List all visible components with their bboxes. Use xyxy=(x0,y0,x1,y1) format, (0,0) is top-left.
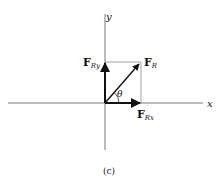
force-resultant-diagram: y x FRy FR FRx θ (c) xyxy=(0,0,219,191)
x-axis-label: x xyxy=(207,98,213,109)
frx-label: FRx xyxy=(137,108,154,122)
y-axis-label: y xyxy=(105,11,112,22)
figure-caption: (c) xyxy=(103,166,115,176)
fry-label: FRy xyxy=(83,56,101,70)
fr-label: FR xyxy=(144,56,158,70)
theta-label: θ xyxy=(117,89,123,99)
